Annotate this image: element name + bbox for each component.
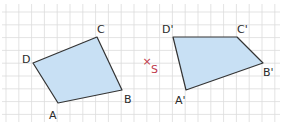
- reflection-diagram: ABCD A'B'C'D' × S: [0, 0, 283, 126]
- vertex-label-a-prime: A': [175, 94, 186, 107]
- center-point-s: × S: [142, 55, 158, 76]
- center-label: S: [151, 63, 158, 76]
- vertex-label-b-prime: B': [263, 66, 274, 79]
- vertex-label-d: D: [22, 53, 30, 66]
- vertex-label-a: A: [49, 109, 57, 122]
- vertex-label-c-prime: C': [237, 23, 248, 36]
- vertex-label-b: B: [124, 93, 132, 106]
- vertex-label-c: C: [97, 23, 105, 36]
- vertex-label-d-prime: D': [162, 23, 174, 36]
